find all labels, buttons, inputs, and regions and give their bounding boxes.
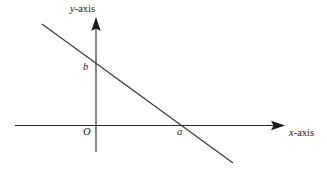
origin-label: O (83, 127, 91, 138)
y-axis-label: y-axis (70, 4, 95, 15)
x-axis-label-suffix: -axis (294, 127, 314, 138)
y-intercept-label: b (83, 62, 88, 73)
coordinate-plane-svg (0, 0, 327, 175)
plotted-line (42, 24, 233, 163)
x-intercept-label: a (177, 127, 182, 138)
y-axis-label-suffix: -axis (75, 3, 95, 14)
x-axis-label: x-axis (289, 128, 314, 139)
graph-figure: y-axis x-axis b a O (0, 0, 327, 175)
